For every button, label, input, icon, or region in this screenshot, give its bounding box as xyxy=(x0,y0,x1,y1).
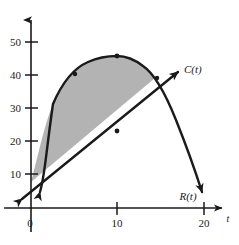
data-point xyxy=(115,54,120,59)
shaded-area xyxy=(31,56,155,182)
x-tick-label: 0 xyxy=(27,217,33,229)
x-axis-label: t xyxy=(227,213,230,224)
y-tick-label: 50 xyxy=(10,36,22,48)
chart-figure: 50 40 30 20 10 0 10 20 t C(t) R(t) xyxy=(0,0,239,245)
y-tick-label: 20 xyxy=(10,135,22,147)
chart-svg: 50 40 30 20 10 0 10 20 t C(t) R(t) xyxy=(0,0,239,245)
curve-label-r: R(t) xyxy=(178,190,196,203)
data-point xyxy=(155,76,159,80)
y-tick-label: 40 xyxy=(10,69,22,81)
x-tick-label: 20 xyxy=(199,217,211,229)
curve-label-c: C(t) xyxy=(184,63,202,76)
data-point xyxy=(73,72,77,76)
y-tick-label: 30 xyxy=(10,102,22,114)
x-tick-label: 10 xyxy=(112,217,124,229)
data-point xyxy=(115,129,120,134)
y-tick-label: 10 xyxy=(10,168,22,180)
